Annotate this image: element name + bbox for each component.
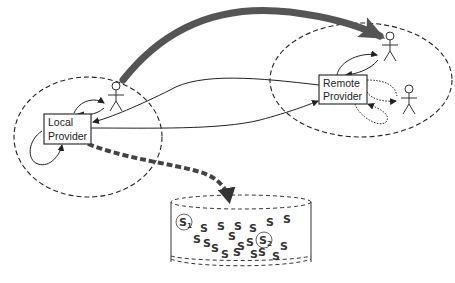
local-to-storage-dashed-arrow: [88, 144, 229, 200]
svg-text:S: S: [250, 248, 258, 261]
person-icon: [382, 32, 398, 61]
remote-provider-label-line1: Remote: [323, 77, 360, 89]
svg-text:S: S: [217, 220, 225, 233]
storage-item-s1: S1: [176, 214, 192, 230]
person-icon: [401, 85, 417, 114]
svg-text:S: S: [200, 222, 208, 235]
remote-provider-node: Remote Provider: [319, 75, 367, 104]
local-to-remote-arrow: [91, 101, 318, 128]
remote-to-local-arrow: [93, 78, 319, 122]
svg-text:S: S: [272, 250, 280, 263]
remote-provider-user-link-b: [346, 60, 378, 75]
svg-text:S: S: [228, 230, 236, 243]
svg-text:S: S: [283, 213, 291, 226]
svg-text:S: S: [221, 248, 229, 261]
svg-text:S: S: [203, 237, 211, 250]
local-provider-label-line1: Local: [48, 116, 73, 128]
local-provider-node: Local Provider: [44, 114, 91, 144]
remote-provider-label-line2: Provider: [323, 90, 363, 102]
local-provider-label-line2: Provider: [48, 130, 88, 142]
svg-text:S: S: [211, 242, 219, 255]
remote-provider-user-link-a: [337, 54, 377, 75]
user-migration-arrow: [123, 10, 380, 80]
storage-items: S S S S S S S S S S S S S S S S S S: [193, 213, 291, 263]
svg-text:S1: S1: [179, 216, 192, 230]
svg-text:S: S: [258, 246, 266, 259]
remote-provider-dotted-link-b: [367, 92, 396, 101]
svg-text:S: S: [193, 233, 201, 246]
remote-provider-dotted-link-a: [367, 80, 397, 96]
diagram-canvas: Local Provider Remote Provider: [0, 0, 455, 283]
remote-provider-dotted-self-loop: [355, 104, 387, 124]
svg-text:S: S: [280, 240, 288, 253]
svg-text:S: S: [249, 222, 257, 235]
person-icon: [108, 82, 124, 111]
svg-text:S: S: [233, 246, 241, 259]
svg-text:S: S: [266, 216, 274, 229]
